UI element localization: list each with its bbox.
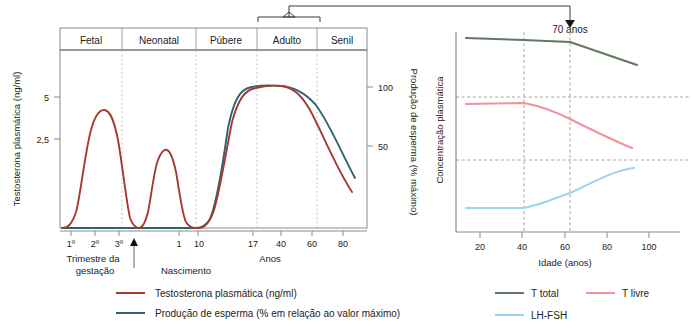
birth-label: Nascimento	[161, 265, 211, 276]
left-xlabel-t3: 3º	[115, 239, 124, 249]
left-xlabel-y1: 1	[176, 239, 181, 249]
right-x-axis-label: Idade (anos)	[538, 257, 591, 268]
right-xlabel-80: 80	[602, 242, 612, 252]
sperm-production-curve	[62, 85, 355, 228]
bracket-connector-line	[289, 6, 570, 22]
bracket-apex	[283, 12, 295, 17]
gestation-label-line1: Trimestre da	[67, 253, 121, 264]
left-plot-frame	[60, 50, 367, 228]
left-panel: Fetal Neonatal Púbere Adulto Senil 5 2,5…	[11, 6, 575, 276]
right-ytick-label-100: 100	[378, 83, 393, 93]
stage-label-fetal: Fetal	[80, 35, 102, 46]
legend-label-lh-fsh: LH-FSH	[531, 310, 567, 321]
gestation-label-line2: gestação	[76, 265, 115, 276]
left-xlabel-y40: 40	[276, 239, 286, 249]
t-livre-line	[466, 103, 632, 148]
right-xlabel-20: 20	[475, 242, 485, 252]
testosterone-curve	[62, 86, 352, 228]
left-xlabel-t1: 1º	[67, 239, 76, 249]
legend-label-t-livre: T livre	[622, 288, 649, 299]
left-ytick-label-5: 5	[44, 93, 49, 103]
legend-label-t-total: T total	[531, 288, 559, 299]
right-legend: T total T livre LH-FSH	[495, 288, 649, 321]
left-xlabel-y60: 60	[307, 239, 317, 249]
stage-label-adulto: Adulto	[273, 35, 302, 46]
right-y-axis-label: Produção de esperma (% máximo)	[409, 69, 420, 216]
left-y-axis-label: Testosterona plasmática (ng/ml)	[11, 72, 22, 207]
left-legend: Testosterona plasmática (ng/ml) Produção…	[116, 288, 400, 319]
figure-svg: Fetal Neonatal Púbere Adulto Senil 5 2,5…	[0, 0, 692, 328]
left-xlabel-t2: 2º	[91, 239, 100, 249]
right-xlabel-40: 40	[517, 242, 527, 252]
right-y-axis-label: Concentração plasmática	[434, 76, 445, 184]
right-xlabel-60: 60	[560, 242, 570, 252]
figure-root: Fetal Neonatal Púbere Adulto Senil 5 2,5…	[0, 0, 692, 328]
stage-label-senil: Senil	[331, 35, 353, 46]
years-label: Anos	[259, 253, 281, 264]
left-ytick-label-2p5: 2,5	[36, 135, 49, 145]
t-total-line	[466, 38, 637, 65]
left-xlabel-y80: 80	[338, 239, 348, 249]
right-ytick-label-50: 50	[378, 142, 388, 152]
legend-label-testosterone: Testosterona plasmática (ng/ml)	[155, 288, 297, 299]
adult-senil-bracket	[258, 17, 320, 22]
birth-marker-triangle	[130, 238, 138, 246]
right-panel: 70 anos 20 40 60 80 100 Idade (anos) Con…	[434, 24, 690, 268]
stage-label-neonatal: Neonatal	[139, 35, 179, 46]
stage-label-pubere: Púbere	[210, 35, 243, 46]
lh-fsh-line	[466, 168, 634, 208]
left-xlabel-y17: 17	[248, 239, 258, 249]
right-xlabel-100: 100	[641, 242, 656, 252]
legend-label-sperm: Produção de esperma (% em relação ao val…	[155, 308, 400, 319]
left-xlabel-y10: 10	[194, 239, 204, 249]
